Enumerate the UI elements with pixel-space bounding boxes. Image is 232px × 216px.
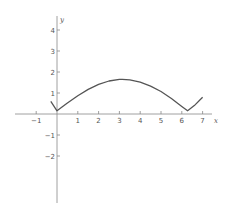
y-tick-label: 4 — [51, 27, 56, 35]
chart: −112345674321−1−2 x y — [0, 0, 232, 216]
y-tick-label: 3 — [51, 48, 55, 56]
y-axis-label: y — [59, 16, 65, 24]
data-curve — [51, 79, 203, 111]
axes — [15, 16, 212, 203]
y-tick-label: 1 — [51, 90, 55, 98]
x-axis-label: x — [214, 117, 218, 125]
x-tick-label: 4 — [138, 117, 143, 125]
y-tick-label: 2 — [51, 69, 55, 77]
x-tick-label: 3 — [117, 117, 121, 125]
x-tick-label: 5 — [159, 117, 163, 125]
x-tick-label: 1 — [76, 117, 80, 125]
x-tick-label: 2 — [96, 117, 100, 125]
x-tick-label: −1 — [31, 117, 41, 125]
x-tick-label: 6 — [180, 117, 185, 125]
y-tick-label: −2 — [45, 153, 55, 161]
y-tick-label: −1 — [45, 132, 55, 140]
ticks — [36, 30, 202, 156]
x-tick-label: 7 — [200, 117, 204, 125]
